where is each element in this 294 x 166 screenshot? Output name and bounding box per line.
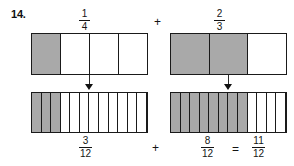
bar-cell-shaded: [210, 34, 249, 74]
denominator: 12: [79, 148, 92, 159]
bar-cell-shaded: [200, 93, 210, 132]
bar-cell-empty: [99, 93, 109, 132]
worksheet-problem: 14. 1 4 + 2 3 3 12 + 8 12 = 11: [0, 0, 294, 166]
top-left-fraction: 1 4: [79, 9, 90, 32]
bar-cell-empty: [109, 93, 119, 132]
bar-cell-empty: [89, 93, 99, 132]
denominator: 12: [201, 148, 214, 159]
bar-cell-empty: [80, 93, 90, 132]
bottom-right-fraction: 8 12: [201, 136, 214, 159]
bar-model-one-fourth: [31, 33, 148, 75]
bar-cell-shaded: [32, 34, 61, 74]
denominator: 4: [81, 21, 89, 32]
bar-cell-empty: [61, 93, 71, 132]
bar-cell-shaded: [190, 93, 200, 132]
equals-operator: =: [232, 143, 239, 155]
bar-cell-shaded: [219, 93, 229, 132]
arrow-head: [85, 84, 93, 90]
bar-cell-empty: [248, 34, 286, 74]
result-fraction: 11 12: [252, 136, 265, 159]
bar-cell-empty: [276, 93, 286, 132]
bar-cell-empty: [70, 93, 80, 132]
bar-cell-empty: [267, 93, 277, 132]
bar-model-three-twelfths: [31, 92, 148, 133]
numerator: 11: [252, 136, 264, 147]
numerator: 2: [216, 9, 224, 20]
bar-cell-empty: [248, 93, 258, 132]
bottom-left-fraction: 3 12: [79, 136, 92, 159]
bar-cell-empty: [61, 34, 90, 74]
bar-cell-shaded: [228, 93, 238, 132]
numerator: 3: [82, 136, 90, 147]
denominator: 3: [216, 21, 224, 32]
top-right-fraction: 2 3: [214, 9, 225, 32]
bar-cell-shaded: [181, 93, 191, 132]
bar-cell-empty: [128, 93, 138, 132]
bar-cell-empty: [257, 93, 267, 132]
bar-model-two-thirds: [170, 33, 287, 75]
bar-cell-shaded: [32, 93, 42, 132]
bar-cell-empty: [137, 93, 147, 132]
bar-cell-empty: [90, 34, 119, 74]
bar-cell-empty: [118, 93, 128, 132]
numerator: 1: [81, 9, 89, 20]
numerator: 8: [204, 136, 212, 147]
bar-cell-shaded: [171, 34, 210, 74]
problem-number: 14.: [11, 9, 26, 20]
bar-model-eight-twelfths: [170, 92, 287, 133]
bottom-plus-operator: +: [152, 142, 159, 154]
bar-cell-shaded: [171, 93, 181, 132]
top-plus-operator: +: [154, 16, 161, 28]
arrow-head: [224, 84, 232, 90]
bar-cell-shaded: [42, 93, 52, 132]
denominator: 12: [252, 148, 265, 159]
bar-cell-empty: [119, 34, 147, 74]
bar-cell-shaded: [209, 93, 219, 132]
bar-cell-shaded: [51, 93, 61, 132]
bar-cell-shaded: [238, 93, 248, 132]
